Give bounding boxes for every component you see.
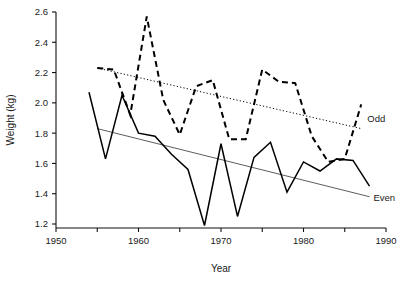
- y-tick-label: 1.2: [35, 218, 48, 229]
- y-tick-label: 2.4: [35, 37, 48, 48]
- y-tick-label: 1.6: [35, 158, 48, 169]
- odd-series-line: [97, 17, 361, 162]
- even-series-line: [89, 92, 370, 225]
- weight-by-year-line-chart: 1.21.41.61.82.02.22.42.6 195019601970198…: [0, 0, 408, 286]
- chart-figure: 1.21.41.61.82.02.22.42.6 195019601970198…: [0, 0, 408, 286]
- data-series: [89, 17, 370, 226]
- y-axis-title: Weight (kg): [5, 95, 16, 146]
- y-axis-tick-labels: 1.21.41.61.82.02.22.42.6: [35, 6, 48, 229]
- y-tick-label: 2.2: [35, 67, 48, 78]
- x-axis-tick-labels: 19501960197019801990: [45, 235, 396, 246]
- axes: 1.21.41.61.82.02.22.42.6 195019601970198…: [35, 6, 397, 246]
- even-series-label: Even: [374, 192, 396, 203]
- x-axis-title: Year: [211, 263, 232, 274]
- x-tick-label: 1960: [128, 235, 149, 246]
- y-tick-label: 1.4: [35, 188, 48, 199]
- y-tick-label: 2.6: [35, 6, 48, 17]
- odd-series-label: Odd: [367, 113, 385, 124]
- x-tick-label: 1980: [293, 235, 314, 246]
- x-tick-label: 1970: [210, 235, 231, 246]
- x-axis-ticks: [56, 228, 386, 232]
- y-axis-ticks: [52, 12, 56, 224]
- y-tick-label: 1.8: [35, 128, 48, 139]
- y-tick-label: 2.0: [35, 97, 48, 108]
- x-tick-label: 1990: [375, 235, 396, 246]
- x-tick-label: 1950: [45, 235, 66, 246]
